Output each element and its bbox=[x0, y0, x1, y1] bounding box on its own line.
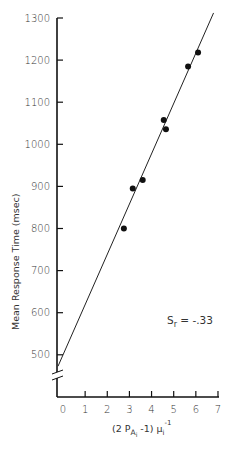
data-point bbox=[121, 226, 127, 232]
x-tick-label: 1 bbox=[82, 404, 88, 415]
x-tick-label: 3 bbox=[126, 404, 132, 415]
data-point bbox=[163, 126, 169, 132]
y-tick-label: 1300 bbox=[25, 13, 50, 24]
data-points bbox=[121, 50, 201, 232]
y-tick-label: 1000 bbox=[25, 139, 50, 150]
data-point bbox=[140, 177, 146, 183]
x-tick-label: 7 bbox=[215, 404, 221, 415]
x-axis-ticks: 01234567 bbox=[60, 391, 221, 415]
y-tick-label: 700 bbox=[31, 265, 50, 276]
x-axis-title: (2 PAi -1) μi-1 bbox=[112, 419, 172, 438]
x-tick-label: 5 bbox=[171, 404, 177, 415]
y-tick-label: 800 bbox=[31, 223, 50, 234]
chart: 5006007008009001000110012001300 01234567… bbox=[0, 0, 235, 452]
data-point bbox=[161, 117, 167, 123]
y-tick-label: 600 bbox=[31, 307, 50, 318]
data-point bbox=[130, 186, 136, 192]
y-tick-label: 1200 bbox=[25, 55, 50, 66]
y-tick-label: 500 bbox=[31, 349, 50, 360]
x-tick-label: 0 bbox=[60, 404, 66, 415]
y-axis-title: Mean Response Time (msec) bbox=[10, 193, 21, 330]
y-tick-label: 1100 bbox=[25, 97, 50, 108]
x-tick-label: 4 bbox=[148, 404, 154, 415]
x-tick-label: 6 bbox=[193, 404, 199, 415]
data-point bbox=[185, 63, 191, 69]
data-point bbox=[195, 50, 201, 56]
sr-annotation: Sr = -.33 bbox=[167, 314, 213, 329]
x-tick-label: 2 bbox=[104, 404, 110, 415]
y-tick-label: 900 bbox=[31, 181, 50, 192]
